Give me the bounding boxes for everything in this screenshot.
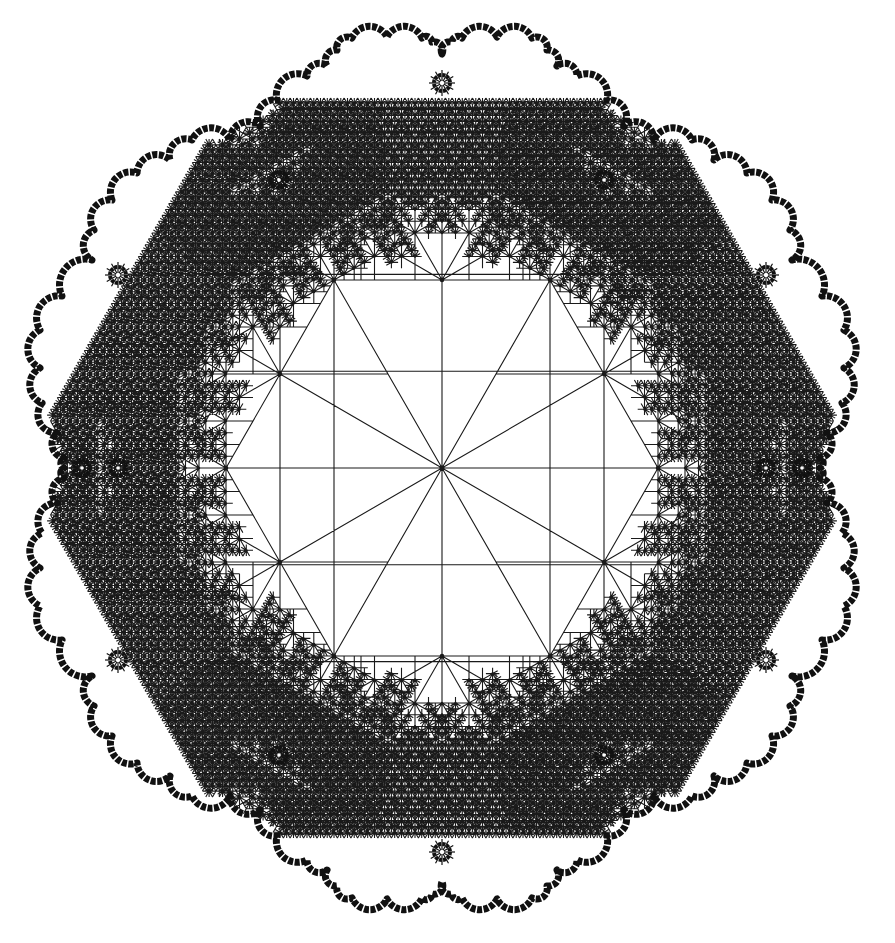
fractal-tessellation [0, 0, 895, 943]
figure-canvas: Self-similar 12-fold star tessellation (… [0, 0, 895, 943]
